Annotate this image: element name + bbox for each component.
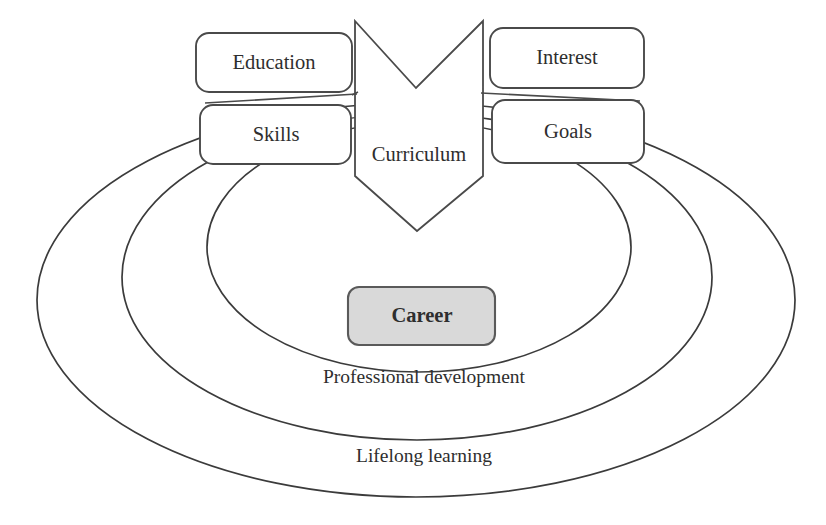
label-curriculum: Curriculum bbox=[372, 143, 467, 165]
label-lifelong-learning: Lifelong learning bbox=[356, 445, 492, 466]
connector-skills-to-chevron bbox=[205, 94, 357, 103]
career-model-diagram: Education Skills Interest Goals Curricul… bbox=[0, 0, 826, 525]
label-interest: Interest bbox=[536, 46, 598, 68]
diagram-canvas: Education Skills Interest Goals Curricul… bbox=[0, 0, 826, 525]
curriculum-chevron-shape bbox=[355, 21, 483, 231]
label-education: Education bbox=[232, 51, 315, 73]
label-goals: Goals bbox=[544, 120, 592, 142]
label-skills: Skills bbox=[253, 123, 300, 145]
label-professional-development: Professional development bbox=[323, 366, 526, 387]
label-career: Career bbox=[391, 304, 452, 326]
